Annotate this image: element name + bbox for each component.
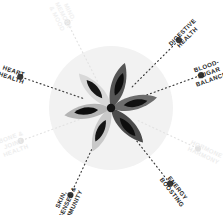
wheel-canvas: DIGESTIVEHEALTHBLOOD-SUGARBALANCEHORMONE… [0, 0, 223, 215]
benefit-label-bone-joint-health[interactable]: BONE &JOINTHEALTH [0, 129, 29, 158]
flower-hub [107, 104, 115, 112]
benefit-label-mind-memory-mood[interactable]: MIND,MEMORY& MOOD [48, 0, 80, 33]
benefit-label-energy-boosting[interactable]: ENERGYBOOSTING [159, 172, 192, 209]
wellness-benefits-wheel: DIGESTIVEHEALTHBLOOD-SUGARBALANCEHORMONE… [0, 0, 223, 215]
benefit-label-hormone-harmony[interactable]: HORMONEHARMONY [187, 138, 223, 165]
benefit-label-heart-health[interactable]: HEARTHEALTH [0, 63, 27, 85]
benefit-label-skin-senses-immunity[interactable]: SKIN,SENSES &IMMUNITY [50, 182, 84, 215]
benefit-label-blood-sugar-balance[interactable]: BLOOD-SUGARBALANCE [190, 57, 223, 88]
